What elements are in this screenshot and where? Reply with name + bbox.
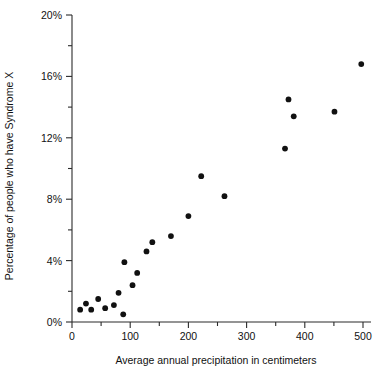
y-tick-label: 0% xyxy=(47,316,62,328)
x-tick-label: 500 xyxy=(354,330,372,342)
y-tick-label: 8% xyxy=(47,193,62,205)
data-point xyxy=(120,311,126,317)
data-point xyxy=(291,113,297,119)
y-tick-label: 16% xyxy=(41,70,62,82)
x-tick-label: 200 xyxy=(180,330,198,342)
data-point xyxy=(130,282,136,288)
data-point xyxy=(77,307,83,313)
chart-canvas: 0%4%8%12%16%20% 0100200300400500 Average… xyxy=(0,0,380,373)
x-axis: 0100200300400500 xyxy=(69,322,372,342)
data-points xyxy=(77,61,364,317)
data-point xyxy=(186,213,192,219)
x-tick-label: 100 xyxy=(121,330,139,342)
x-axis-tick-labels: 0100200300400500 xyxy=(69,330,372,342)
data-point xyxy=(198,173,204,179)
data-point xyxy=(144,248,150,254)
x-axis-title: Average annual precipitation in centimet… xyxy=(115,354,316,366)
data-point xyxy=(111,302,117,308)
scatter-chart: 0%4%8%12%16%20% 0100200300400500 Average… xyxy=(0,0,380,373)
data-point xyxy=(88,307,94,313)
x-axis-ticks xyxy=(72,322,363,328)
y-tick-label: 12% xyxy=(41,132,62,144)
data-point xyxy=(332,109,338,115)
y-tick-label: 4% xyxy=(47,255,62,267)
y-axis-title: Percentage of people who have Syndrome X xyxy=(3,72,15,280)
data-point xyxy=(102,305,108,311)
data-point xyxy=(149,239,155,245)
data-point xyxy=(116,290,122,296)
data-point xyxy=(358,61,364,67)
y-axis-tick-labels: 0%4%8%12%16%20% xyxy=(41,9,62,328)
data-point xyxy=(222,193,228,199)
data-point xyxy=(134,270,140,276)
data-point xyxy=(286,97,292,103)
data-point xyxy=(168,233,174,239)
y-axis-ticks xyxy=(66,15,72,322)
y-tick-label: 20% xyxy=(41,9,62,21)
x-tick-label: 400 xyxy=(296,330,314,342)
y-axis: 0%4%8%12%16%20% xyxy=(41,9,72,328)
x-tick-label: 300 xyxy=(238,330,256,342)
x-tick-label: 0 xyxy=(69,330,75,342)
data-point xyxy=(121,259,127,265)
data-point xyxy=(83,301,89,307)
data-point xyxy=(95,296,101,302)
data-point xyxy=(282,146,288,152)
